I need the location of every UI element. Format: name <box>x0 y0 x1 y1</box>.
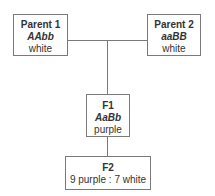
f1-phenotype: purple <box>87 124 129 136</box>
parent2-box: Parent 2 aaBB white <box>147 14 201 56</box>
parents-to-f1-line <box>107 40 108 94</box>
f1-box: F1 AaBb purple <box>86 94 130 137</box>
parent1-genotype: AAbb <box>14 31 67 43</box>
f2-title: F2 <box>66 162 150 174</box>
parent2-genotype: aaBB <box>148 31 200 43</box>
parent2-phenotype: white <box>148 43 200 55</box>
parent1-phenotype: white <box>14 43 67 55</box>
parent1-title: Parent 1 <box>14 19 67 31</box>
f1-title: F1 <box>87 100 129 112</box>
f1-to-f2-line <box>107 137 108 156</box>
parent2-title: Parent 2 <box>148 19 200 31</box>
f2-box: F2 9 purple : 7 white <box>65 156 151 190</box>
f1-genotype: AaBb <box>87 112 129 124</box>
f2-ratio: 9 purple : 7 white <box>66 174 150 186</box>
parent1-box: Parent 1 AAbb white <box>13 14 68 56</box>
